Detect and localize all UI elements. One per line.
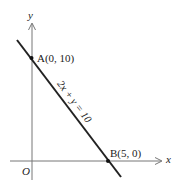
x-axis-label: x [166,154,171,165]
point-b-label: B(5, 0) [110,148,141,159]
point-a-label: A(0, 10) [37,53,74,64]
point-a [30,56,34,60]
origin-label: O [22,166,30,177]
y-axis-label: y [28,10,33,21]
diagram-canvas: y x O A(0, 10) B(5, 0) 2x + y = 10 [0,0,179,193]
point-b [106,159,110,163]
